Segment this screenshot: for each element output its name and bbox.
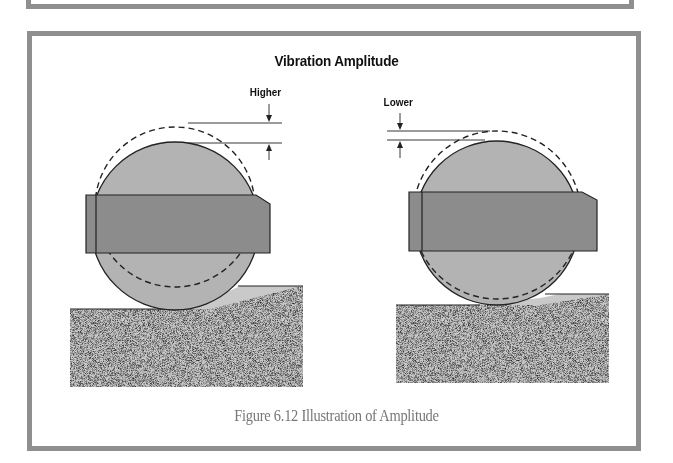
left-drum-frame <box>86 195 270 253</box>
right-drum-frame <box>409 192 597 251</box>
left-panel-higher <box>70 104 303 388</box>
amplitude-illustration <box>0 0 673 463</box>
figure-caption: Figure 6.12 Illustration of Amplitude <box>50 406 622 426</box>
right-panel-lower <box>387 113 609 384</box>
